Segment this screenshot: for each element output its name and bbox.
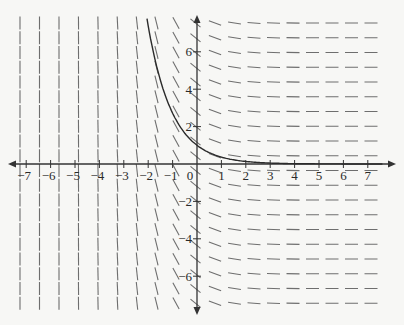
slope-segment xyxy=(155,31,158,44)
slope-segment xyxy=(209,198,221,202)
slope-segment xyxy=(228,243,241,245)
slope-segment xyxy=(248,23,261,24)
slope-field-diagram: −7−6−5−4−3−2−11234567 642−2−4−6 0 xyxy=(0,0,404,325)
y-tick-label: 6 xyxy=(186,44,193,59)
x-axis-left-arrow-icon xyxy=(8,161,16,168)
slope-segment xyxy=(248,244,261,245)
x-tick-label: −4 xyxy=(90,168,104,183)
slope-segment xyxy=(117,194,118,207)
slope-segment xyxy=(228,155,241,157)
slope-segment xyxy=(173,62,179,73)
slope-segment xyxy=(190,211,200,219)
slope-segment xyxy=(117,76,118,89)
slope-segment xyxy=(136,61,137,74)
slope-segment xyxy=(190,284,200,292)
slope-segment xyxy=(209,213,221,217)
slope-segment xyxy=(117,120,118,133)
slope-segment xyxy=(155,149,158,162)
slope-segment xyxy=(209,50,221,54)
slope-segment xyxy=(228,81,241,83)
slope-segment xyxy=(155,179,158,192)
y-axis-up-arrow-icon xyxy=(194,15,201,23)
slope-segment xyxy=(155,208,158,221)
slope-segment xyxy=(173,283,179,294)
y-axis-down-arrow-icon xyxy=(194,307,201,315)
slope-segment xyxy=(228,184,241,186)
slope-segment xyxy=(228,22,241,24)
slope-segment xyxy=(117,267,118,280)
slope-segment xyxy=(248,96,261,97)
slope-segment xyxy=(155,17,158,30)
slope-segment xyxy=(209,124,221,128)
x-tick-label: −2 xyxy=(139,168,153,183)
slope-segment xyxy=(228,125,241,127)
slope-segment xyxy=(209,36,221,40)
slope-segment xyxy=(209,65,221,69)
slope-segment xyxy=(173,135,179,146)
slope-segment xyxy=(248,259,261,260)
slope-segment xyxy=(117,253,118,266)
slope-segment xyxy=(117,17,118,30)
slope-segment xyxy=(228,273,241,275)
slope-field-segments xyxy=(20,17,378,310)
slope-segment xyxy=(136,223,137,236)
x-tick-label: 5 xyxy=(316,168,323,183)
slope-segment xyxy=(136,267,137,280)
slope-segment xyxy=(209,227,221,231)
slope-segment xyxy=(136,238,137,251)
x-tick-label: 3 xyxy=(267,168,274,183)
slope-segment xyxy=(173,209,179,220)
slope-segment xyxy=(117,61,118,74)
slope-segment xyxy=(136,208,137,221)
slope-segment xyxy=(209,257,221,261)
slope-segment xyxy=(228,66,241,68)
slope-segment xyxy=(248,185,261,186)
slope-segment xyxy=(228,214,241,216)
slope-segment xyxy=(173,253,179,264)
x-tick-label: 2 xyxy=(243,168,250,183)
slope-segment xyxy=(117,90,118,103)
slope-segment xyxy=(136,297,137,310)
slope-segment xyxy=(248,126,261,127)
slope-segment xyxy=(248,273,261,274)
slope-segment xyxy=(136,164,137,177)
slope-segment xyxy=(209,80,221,84)
slope-segment xyxy=(248,82,261,83)
y-tick-label: −6 xyxy=(178,269,192,284)
slope-segment xyxy=(228,51,241,53)
slope-segment xyxy=(190,299,200,307)
slope-segment xyxy=(173,150,179,161)
slope-segment xyxy=(117,105,118,118)
slope-segment xyxy=(136,135,137,148)
slope-segment xyxy=(248,229,261,230)
x-tick-label: 1 xyxy=(218,168,225,183)
slope-segment xyxy=(136,76,137,89)
slope-segment xyxy=(136,105,137,118)
slope-segment xyxy=(248,67,261,68)
slope-segment xyxy=(228,228,241,230)
slope-segment xyxy=(155,297,158,310)
slope-segment xyxy=(117,135,118,148)
slope-segment xyxy=(248,52,261,53)
y-tick-label: −2 xyxy=(178,194,192,209)
slope-segment xyxy=(155,267,158,280)
slope-segment xyxy=(209,95,221,99)
slope-segment xyxy=(136,179,137,192)
slope-segment xyxy=(228,110,241,112)
slope-segment xyxy=(136,31,137,44)
slope-segment xyxy=(248,170,261,171)
slope-segment xyxy=(173,76,179,87)
slope-segment xyxy=(248,303,261,304)
x-tick-label: 6 xyxy=(340,168,347,183)
slope-segment xyxy=(155,164,158,177)
slope-segment xyxy=(228,287,241,289)
slope-segment xyxy=(117,208,118,221)
slope-segment xyxy=(228,302,241,304)
slope-segment xyxy=(155,238,158,251)
slope-segment xyxy=(209,21,221,25)
slope-segment xyxy=(155,223,158,236)
slope-segment xyxy=(117,282,118,295)
x-tick-label: −6 xyxy=(42,168,56,183)
slope-segment xyxy=(190,34,200,42)
slope-segment xyxy=(136,253,137,266)
